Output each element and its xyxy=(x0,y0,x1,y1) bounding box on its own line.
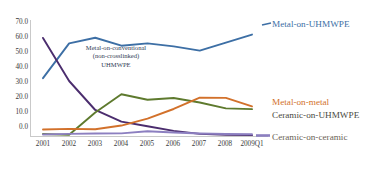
line-chart: 70.0 60.0 50.0 40.0 30.0 20.0 10.0 0.0 2… xyxy=(0,0,387,172)
series-line-metal-on-metal xyxy=(43,98,252,130)
series-line-ceramic-on-ceramic xyxy=(43,131,252,134)
axis-lines xyxy=(31,20,269,137)
series-line-metal-on-uhmwpe xyxy=(43,35,252,79)
series-line-metal-on-conventional-non-crosslinked-uhmwpe xyxy=(43,38,252,135)
series-paths xyxy=(43,35,270,137)
leader-lines xyxy=(262,23,271,25)
leader-metal-on-uhmwpe xyxy=(262,23,271,25)
legend-swatch-ceramic-on-ceramic xyxy=(256,134,270,137)
plot-area xyxy=(0,0,387,172)
